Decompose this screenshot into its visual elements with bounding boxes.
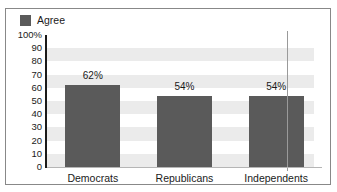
plot-area: 62%54%54% <box>47 35 322 167</box>
chart-frame: Agree 0102030405060708090100% 62%54%54% … <box>5 8 331 185</box>
x-axis-tick-label: Republicans <box>139 171 231 185</box>
y-axis-tick-label: 10 <box>6 149 42 159</box>
gridline-band <box>47 48 314 61</box>
y-axis-tick-label: 0 <box>6 162 42 172</box>
x-axis: DemocratsRepublicansIndependents <box>47 171 322 185</box>
y-axis: 0102030405060708090100% <box>6 35 42 167</box>
bar-democrats <box>65 85 120 167</box>
x-axis-line <box>47 167 322 168</box>
x-axis-tick-label: Independents <box>230 171 322 185</box>
y-axis-tick-label: 60 <box>6 83 42 93</box>
bar-independents <box>249 96 304 167</box>
y-axis-tick-label: 20 <box>6 136 42 146</box>
y-axis-tick-label: 80 <box>6 57 42 67</box>
x-axis-tick-label: Democrats <box>47 171 139 185</box>
y-axis-tick-label: 100% <box>6 30 42 40</box>
y-axis-tick-label: 70 <box>6 70 42 80</box>
y-axis-tick-label: 40 <box>6 109 42 119</box>
bar-republicans <box>157 96 212 167</box>
bar-value-label: 54% <box>249 82 304 92</box>
y-axis-tick-label: 50 <box>6 96 42 106</box>
bar-value-label: 54% <box>157 82 212 92</box>
chart-screenshot: Agree 0102030405060708090100% 62%54%54% … <box>0 0 337 192</box>
y-axis-tick-label: 30 <box>6 123 42 133</box>
y-axis-tick-label: 90 <box>6 43 42 53</box>
plot-wrapper: 0102030405060708090100% 62%54%54% Democr… <box>6 9 330 184</box>
plot-right-border <box>287 31 288 171</box>
bar-value-label: 62% <box>65 71 120 81</box>
